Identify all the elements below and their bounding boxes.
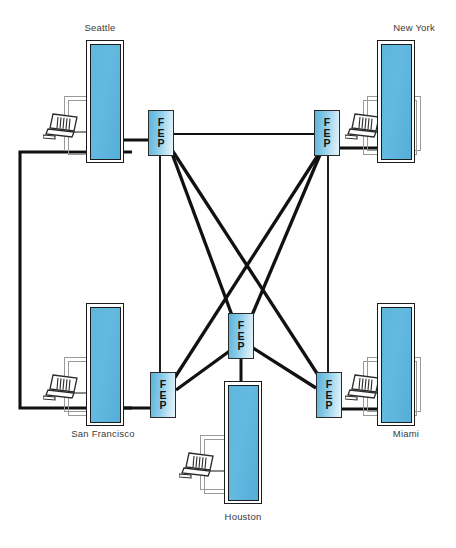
terminal-san-francisco bbox=[43, 373, 83, 403]
site-label-seattle: Seattle bbox=[69, 22, 131, 33]
mainframe-panel-new-york bbox=[381, 44, 412, 160]
site-label-new-york: New York bbox=[383, 22, 445, 33]
fep-node-miami[interactable]: F E P bbox=[316, 372, 342, 418]
mainframe-new-york bbox=[377, 40, 415, 163]
fep-letter-p: P bbox=[237, 341, 244, 352]
fep-node-new-york[interactable]: F E P bbox=[314, 110, 340, 156]
link-seattle-fep-houston-fep bbox=[170, 148, 233, 318]
fep-letter-p: P bbox=[159, 400, 166, 411]
fep-node-san-francisco[interactable]: F E P bbox=[150, 372, 176, 418]
mainframe-miami bbox=[377, 303, 415, 426]
link-new-york-fep-houston-fep bbox=[250, 150, 322, 320]
fep-node-houston[interactable]: F E P bbox=[228, 313, 254, 359]
site-label-miami: Miami bbox=[375, 428, 437, 439]
terminal-houston bbox=[179, 451, 219, 481]
fep-letter-p: P bbox=[325, 400, 332, 411]
site-label-houston: Houston bbox=[212, 511, 274, 522]
terminal-seattle bbox=[43, 112, 83, 142]
site-label-san-francisco: San Francisco bbox=[62, 428, 144, 439]
mainframe-houston bbox=[224, 381, 262, 504]
network-diagram: F E P Seattle F E P New York bbox=[0, 0, 456, 548]
link-miami-fep-houston-fep bbox=[253, 348, 316, 388]
mainframe-panel-san-francisco bbox=[90, 307, 121, 423]
fep-node-seattle[interactable]: F E P bbox=[148, 110, 174, 156]
mainframe-panel-houston bbox=[228, 385, 259, 501]
mainframe-panel-miami bbox=[381, 307, 412, 423]
mainframe-panel-seattle bbox=[90, 44, 121, 160]
mainframe-san-francisco bbox=[86, 303, 124, 426]
fep-letter-p: P bbox=[323, 138, 330, 149]
fep-letter-p: P bbox=[157, 138, 164, 149]
mainframe-seattle bbox=[86, 40, 124, 163]
link-san-francisco-fep-houston-fep bbox=[176, 350, 231, 390]
